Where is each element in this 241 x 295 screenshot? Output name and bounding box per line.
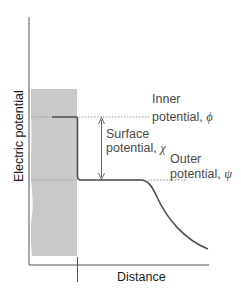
chi-symbol: χ [159, 141, 166, 155]
surface-potential-label-line1: Surface [106, 127, 149, 141]
diagram-canvas: Electric potential Distance Inner potent… [0, 0, 241, 295]
phase-region [31, 89, 77, 256]
phi-symbol: ϕ [206, 110, 213, 124]
x-axis-label: Distance [117, 270, 166, 284]
surface-potential-label-line2: potential, χ [106, 141, 166, 155]
surface-potential-arrow [99, 118, 105, 180]
outer-potential-label-line2: potential, ψ [170, 167, 232, 181]
inner-potential-label-line1: Inner [152, 92, 181, 106]
y-axis-label: Electric potential [12, 90, 26, 182]
psi-symbol: ψ [224, 167, 232, 181]
inner-potential-label-line2: potential, ϕ [152, 110, 213, 124]
surface-potential-text: potential, [106, 141, 160, 155]
potential-diagram: Electric potential Distance Inner potent… [0, 0, 241, 295]
outer-potential-text: potential, [170, 167, 224, 181]
outer-potential-label-line1: Outer [170, 152, 201, 166]
inner-potential-text: potential, [152, 110, 206, 124]
